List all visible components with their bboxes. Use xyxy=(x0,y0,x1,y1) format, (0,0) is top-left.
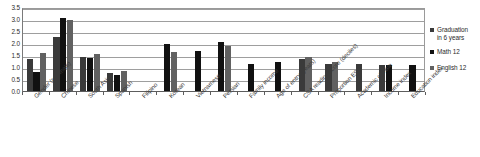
legend-swatch-icon xyxy=(430,28,434,32)
legend-item[interactable]: English 12 xyxy=(430,64,466,72)
y-tick-label: 2.0 xyxy=(11,41,20,47)
y-tick-label: 2.5 xyxy=(11,29,20,35)
bar-group xyxy=(23,9,426,91)
y-tick-label: 3.5 xyxy=(11,5,20,11)
bar-chart: 0.00.51.01.52.02.53.03.5 Gender (ref=mal… xyxy=(0,0,480,157)
legend-label: Graduation in 6 years xyxy=(437,26,468,42)
plot-area xyxy=(22,8,425,92)
y-tick-label: 0.5 xyxy=(11,77,20,83)
legend-item[interactable]: Math 12 xyxy=(430,48,460,56)
y-tick-label: 3.0 xyxy=(11,17,20,23)
legend-label: Math 12 xyxy=(437,48,460,56)
y-axis: 0.00.51.01.52.02.53.03.5 xyxy=(0,0,20,97)
y-tick-label: 1.5 xyxy=(11,53,20,59)
legend-swatch-icon xyxy=(430,50,434,54)
bars-layer xyxy=(23,9,424,91)
legend-label: English 12 xyxy=(437,64,466,72)
legend-item[interactable]: Graduation in 6 years xyxy=(430,26,468,42)
x-axis-labels: Gender (ref=male)ChineseSouth AsianSpani… xyxy=(0,95,480,157)
y-tick-label: 1.0 xyxy=(11,65,20,71)
legend-swatch-icon xyxy=(430,66,434,70)
